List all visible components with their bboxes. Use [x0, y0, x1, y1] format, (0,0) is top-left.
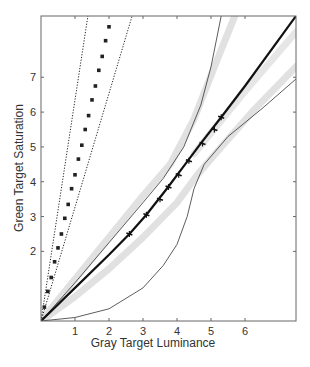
series-upper-thin-curve [41, 16, 221, 321]
series-gray-band-main-right [194, 32, 296, 154]
series-steep-data-squares [43, 25, 111, 309]
y-tick-label: 7 [30, 71, 36, 83]
y-axis-label: Green Target Saturation [12, 104, 26, 232]
plot-area [41, 16, 296, 321]
y-tick-label: 5 [30, 141, 36, 153]
y-tick-label: 2 [30, 245, 36, 257]
x-tick-label: 1 [72, 325, 78, 337]
x-axis-label: Gray Target Luminance [91, 336, 216, 350]
chart: 123456234567 Gray Target Luminance Green… [0, 0, 310, 367]
y-tick-label: 4 [30, 176, 36, 188]
y-tick-label: 6 [30, 106, 36, 118]
y-tick-label: 3 [30, 211, 36, 223]
x-tick-label: 6 [242, 325, 248, 337]
